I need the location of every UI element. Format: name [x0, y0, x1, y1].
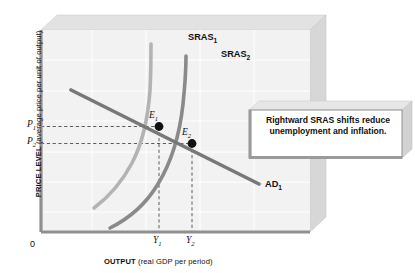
x-axis-title: OUTPUT (real GDP per period): [104, 258, 213, 266]
callout-line-2: unemployment and inflation.: [253, 126, 403, 137]
y-tick-p2-sub: 2: [33, 141, 36, 148]
curve-label-ad1-sub: 1: [278, 184, 282, 191]
x-axis-title-bold: OUTPUT: [104, 257, 136, 266]
ad-sras-diagram: PRICE LEVEL (average price per unit of o…: [0, 0, 415, 273]
curve-label-sras2: SRAS2: [221, 50, 250, 61]
equilibrium-point-e1: [155, 122, 164, 131]
y-tick-p1: P1: [27, 120, 36, 131]
y-axis-title: PRICE LEVEL (average price per unit of o…: [35, 24, 43, 204]
callout-left-edge: [249, 110, 252, 158]
y-tick-p2: P2: [27, 137, 36, 148]
equilibrium-label-e2: E2: [182, 128, 191, 139]
curve-label-sras1-sub: 1: [214, 37, 218, 44]
y-tick-p1-sub: 1: [33, 124, 36, 131]
callout-top-bevel: [249, 101, 412, 110]
equilibrium-label-e1: E1: [149, 111, 158, 122]
x-tick-y2-sub: 2: [191, 240, 194, 247]
x-axis-title-paren: (real GDP per period): [136, 257, 213, 266]
curve-label-ad1: AD1: [265, 180, 282, 191]
y-axis-title-bold: PRICE LEVEL: [34, 146, 43, 197]
curve-label-sras1-text: SRAS: [188, 32, 214, 42]
x-tick-y1: Y1: [153, 236, 162, 247]
callout-right-bevel: [402, 101, 412, 158]
callout-annotation: Rightward SRAS shifts reduce unemploymen…: [253, 115, 403, 138]
curve-label-sras2-sub: 2: [247, 54, 251, 61]
callout-bottom-edge: [249, 156, 402, 159]
equilibrium-label-e1-sub: 1: [155, 115, 158, 122]
origin-label: 0: [30, 240, 35, 249]
curve-label-sras1: SRAS1: [188, 33, 217, 44]
frame-top-bevel: [41, 15, 326, 30]
equilibrium-point-e2: [188, 139, 197, 148]
equilibrium-label-e2-sub: 2: [188, 132, 191, 139]
x-tick-y1-sub: 1: [158, 240, 161, 247]
x-tick-y2: Y2: [186, 236, 195, 247]
callout-line-1: Rightward SRAS shifts reduce: [253, 115, 403, 126]
curve-label-sras2-text: SRAS: [221, 49, 247, 59]
curve-label-ad1-text: AD: [265, 179, 278, 189]
